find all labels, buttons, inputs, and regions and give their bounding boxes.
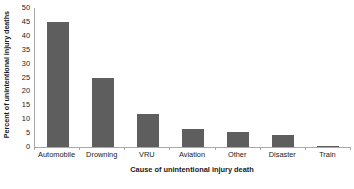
bar-slot (306, 8, 351, 147)
y-axis-title: Percent of unintentional injury deaths (0, 0, 14, 150)
x-axis-tick-label: Drowning (79, 151, 124, 165)
plot-area (34, 8, 351, 148)
y-axis-tick-labels: 50454035302520151050 (14, 0, 32, 155)
bar-slot (216, 8, 261, 147)
y-axis-tick-label: 40 (22, 32, 30, 39)
x-axis-tick-mark (79, 147, 80, 150)
y-axis-tick-label: 5 (26, 129, 30, 136)
x-axis-tick-mark (124, 147, 125, 150)
bar-chart-figure: Percent of unintentional injury deaths 5… (0, 0, 354, 189)
bar-disaster (272, 135, 294, 148)
bar-automobile (47, 22, 69, 147)
bar-slot (261, 8, 306, 147)
y-axis-tick-label: 15 (22, 101, 30, 108)
y-axis-tick-label: 35 (22, 46, 30, 53)
x-axis-tick-mark (169, 147, 170, 150)
bar-slot (35, 8, 80, 147)
x-axis-tick-mark (260, 147, 261, 150)
x-axis-tick-labels: AutomobileDrowningVRUAviationOtherDisast… (34, 151, 350, 165)
y-axis-tick-label: 20 (22, 87, 30, 94)
bar-aviation (182, 129, 204, 147)
x-axis-tick-mark (34, 147, 35, 150)
x-axis-tick-mark (215, 147, 216, 150)
bar-slot (125, 8, 170, 147)
x-axis-tick-label: Aviation (169, 151, 214, 165)
y-axis-title-text: Percent of unintentional injury deaths (3, 11, 10, 138)
bars-layer (35, 8, 351, 147)
y-axis-tick-label: 0 (26, 143, 30, 150)
bar-slot (80, 8, 125, 147)
bar-drowning (92, 78, 114, 148)
y-axis-tick-label: 25 (22, 74, 30, 81)
bar-vru (137, 114, 159, 147)
x-axis-tick-mark (305, 147, 306, 150)
y-axis-tick-label: 45 (22, 18, 30, 25)
x-axis-tick-label: Automobile (34, 151, 79, 165)
x-axis-tick-label: VRU (124, 151, 169, 165)
bar-other (227, 132, 249, 147)
y-axis-tick-label: 10 (22, 115, 30, 122)
x-axis-tick-label: Disaster (260, 151, 305, 165)
bar-slot (170, 8, 215, 147)
y-axis-tick-label: 50 (22, 4, 30, 11)
y-axis-tick-label: 30 (22, 60, 30, 67)
x-axis-title: Cause of unintentional injury death (34, 166, 350, 173)
x-axis-tick-mark (350, 147, 351, 150)
x-axis-tick-label: Train (305, 151, 350, 165)
x-axis-tick-label: Other (215, 151, 260, 165)
